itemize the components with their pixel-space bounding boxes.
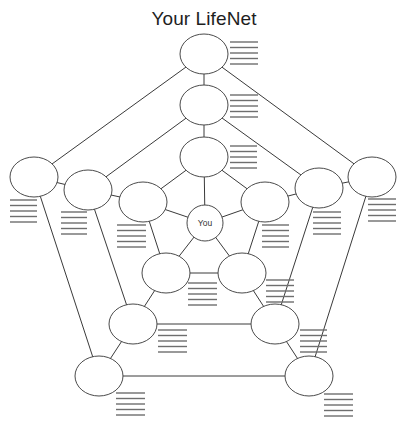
node-ellipse-l0 [10, 157, 58, 197]
writing-lines-t2 [230, 146, 257, 168]
edge-r0-t0 [204, 54, 372, 177]
writing-lines-r2 [262, 225, 289, 247]
lifenet-diagram: You [0, 0, 405, 429]
node-ellipse-bl1 [109, 304, 157, 344]
writing-lines-t1 [230, 95, 258, 117]
node-ellipse-t0 [180, 34, 228, 74]
writing-lines-br0 [324, 394, 353, 416]
node-ellipse-bl0 [75, 356, 123, 396]
node-ellipse-r1 [295, 168, 343, 208]
node-ellipse-r2 [241, 182, 289, 222]
writing-lines-bl1 [158, 330, 187, 352]
node-ellipse-t2 [180, 137, 228, 177]
writing-lines-bl2 [188, 283, 217, 305]
node-ellipse-br0 [285, 356, 333, 396]
node-ellipse-br2 [218, 253, 266, 293]
writing-lines-br2 [266, 280, 294, 302]
node-ellipse-r0 [348, 157, 396, 197]
writing-lines-l1 [61, 212, 87, 234]
node-ellipse-bl2 [142, 253, 190, 293]
writing-lines-r1 [313, 212, 341, 234]
writing-lines-l0 [10, 200, 37, 222]
center-node: You [187, 205, 223, 241]
node-ellipse-l2 [119, 182, 167, 222]
writing-lines-l2 [117, 225, 146, 247]
node-ellipse-br1 [251, 304, 299, 344]
node-ellipse-l1 [64, 170, 112, 210]
you-label: You [198, 218, 213, 228]
writing-lines-bl0 [116, 393, 145, 415]
edge-t0-l0 [34, 54, 204, 177]
node-ellipse-t1 [180, 85, 228, 125]
writing-lines-t0 [230, 42, 258, 64]
writing-lines-r0 [368, 199, 396, 221]
